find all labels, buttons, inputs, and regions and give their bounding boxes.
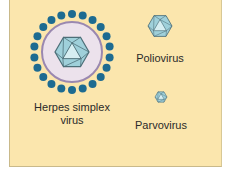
herpes-simplex-virus — [30, 10, 113, 94]
glycoprotein-spike — [68, 86, 76, 94]
glycoprotein-spike — [39, 23, 47, 31]
glycoprotein-spike — [68, 10, 76, 18]
glycoprotein-spike — [47, 16, 55, 24]
glycoprotein-spike — [57, 84, 65, 92]
glycoprotein-spike — [103, 64, 111, 72]
glycoprotein-spike — [103, 32, 111, 40]
glycoprotein-spike — [97, 73, 105, 81]
poliovirus-label: Poliovirus — [130, 52, 190, 65]
glycoprotein-spike — [33, 64, 41, 72]
glycoprotein-spike — [30, 43, 38, 51]
glycoprotein-spike — [89, 16, 97, 24]
poliovirus-capsid-icon — [148, 16, 172, 37]
glycoprotein-spike — [39, 73, 47, 81]
glycoprotein-spike — [79, 84, 87, 92]
glycoprotein-spike — [106, 53, 114, 61]
herpes-label-line2: virus — [32, 114, 112, 127]
glycoprotein-spike — [89, 80, 97, 88]
glycoprotein-spike — [79, 12, 87, 20]
glycoprotein-spike — [106, 43, 114, 51]
parvovirus-label: Parvovirus — [131, 119, 191, 132]
glycoprotein-spike — [47, 80, 55, 88]
virus-illustration — [0, 0, 227, 175]
glycoprotein-spike — [97, 23, 105, 31]
glycoprotein-spike — [30, 53, 38, 61]
glycoprotein-spike — [57, 12, 65, 20]
glycoprotein-spike — [33, 32, 41, 40]
parvovirus-capsid-icon — [155, 92, 167, 102]
herpes-label-line1: Herpes simplex — [32, 101, 112, 114]
